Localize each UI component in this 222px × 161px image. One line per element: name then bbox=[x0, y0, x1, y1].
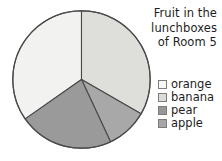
legend-label-apple: apple bbox=[171, 117, 203, 130]
chart-title: Fruit in the lunchboxes of Room 5 bbox=[129, 6, 217, 50]
legend-swatch-pear bbox=[158, 106, 167, 115]
legend-swatch-banana bbox=[158, 93, 167, 102]
chart-title-line-3: of Room 5 bbox=[129, 35, 217, 50]
legend-swatch-apple bbox=[158, 119, 167, 128]
legend-swatch-orange bbox=[158, 80, 167, 89]
chart-title-line-2: lunchboxes bbox=[129, 21, 217, 36]
legend-item-apple: apple bbox=[158, 117, 220, 130]
chart-legend: orange banana pear apple bbox=[158, 78, 220, 130]
pie-chart-screenshot: Fruit in the lunchboxes of Room 5 orange… bbox=[0, 0, 222, 161]
chart-title-line-1: Fruit in the bbox=[129, 6, 217, 21]
